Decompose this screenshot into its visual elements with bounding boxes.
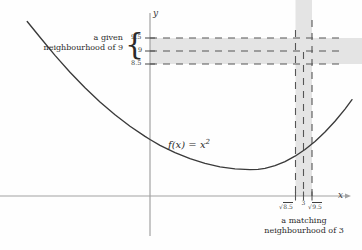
given-neighbourhood-note: a given neighbourhood of 9 (18, 33, 123, 53)
matching-neighbourhood-note: a matching neighbourhood of 3 (249, 216, 359, 236)
x-axis-arrow (345, 194, 351, 199)
y-axis-label: y (153, 8, 158, 19)
x-tick-label-sqrt9point5-radicand: 9.5 (312, 202, 323, 211)
given-neighbourhood-line2: neighbourhood of 9 (18, 43, 123, 53)
x-tick-label-sqrt8point5-radicand: 8.5 (283, 202, 294, 211)
function-label-exponent: 2 (206, 138, 210, 146)
function-label: f(x) = x2 (168, 138, 210, 152)
radical-sign-icon: √9.5 (308, 201, 322, 211)
function-label-text: f(x) = x (168, 139, 206, 150)
given-neighbourhood-line1: a given (18, 33, 123, 43)
x-tick-label-sqrt8point5: √8.5 (279, 201, 293, 211)
radical-sign-icon: √8.5 (279, 201, 293, 211)
x-tick-label-sqrt9point5: √9.5 (308, 201, 322, 211)
matching-neighbourhood-line1: a matching (249, 216, 359, 226)
x-axis-label: x (338, 190, 343, 201)
epsilon-delta-figure: y x 9.5 9 8.5 √8.5 3 √9.5 f(x) = x2 a gi… (0, 0, 362, 250)
x-tick-label-3: 3 (302, 199, 306, 207)
matching-neighbourhood-line2: neighbourhood of 3 (249, 226, 359, 236)
given-neighbourhood-brace: { (125, 29, 144, 59)
